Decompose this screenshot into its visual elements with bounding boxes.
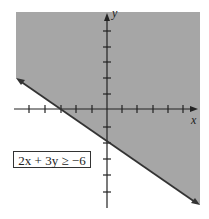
inequality-label: 2x + 3y ≥ −6 (13, 151, 91, 168)
y-axis-label: y (112, 6, 117, 21)
inequality-graph (0, 0, 209, 219)
x-axis-label: x (191, 113, 196, 128)
